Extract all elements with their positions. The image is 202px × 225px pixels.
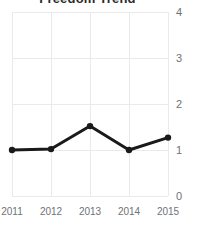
series-line-freedom-trend — [12, 12, 168, 196]
y-tick-label: 2 — [176, 98, 196, 110]
x-tick-label: 2013 — [79, 206, 101, 217]
x-tick-label: 2015 — [157, 206, 179, 217]
x-tick-label: 2014 — [118, 206, 140, 217]
plot-area — [12, 12, 168, 196]
x-tick-label: 2012 — [40, 206, 62, 217]
data-point-marker — [165, 134, 171, 140]
x-tick-label: 2011 — [1, 206, 23, 217]
y-tick-label: 0 — [176, 190, 196, 202]
series-polyline — [12, 126, 168, 150]
y-tick-label: 3 — [176, 52, 196, 64]
gridline-vertical — [168, 12, 169, 196]
y-tick-label: 4 — [176, 6, 196, 18]
y-tick-label: 1 — [176, 144, 196, 156]
gridline-horizontal — [12, 196, 168, 197]
data-point-marker — [9, 147, 15, 153]
data-point-marker — [126, 147, 132, 153]
line-chart: Freedom Trend 01234 20112012201320142015 — [0, 0, 202, 225]
data-point-marker — [87, 123, 93, 129]
data-point-marker — [48, 146, 54, 152]
chart-title: Freedom Trend — [0, 0, 175, 6]
